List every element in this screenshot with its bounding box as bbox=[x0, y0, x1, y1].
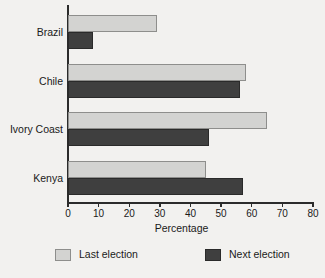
bar[interactable] bbox=[68, 32, 93, 49]
x-tick-label: 30 bbox=[147, 208, 173, 220]
x-tick-label: 40 bbox=[178, 208, 204, 220]
legend-label-next-election: Next election bbox=[229, 248, 290, 261]
bar[interactable] bbox=[68, 64, 246, 81]
bar[interactable] bbox=[68, 81, 240, 98]
category-label: Ivory Coast bbox=[10, 123, 63, 135]
x-tick-mark bbox=[220, 202, 221, 207]
x-tick-mark bbox=[129, 202, 130, 207]
bar[interactable] bbox=[68, 161, 206, 178]
bar[interactable] bbox=[68, 178, 243, 195]
bar[interactable] bbox=[68, 112, 267, 129]
legend-swatch-next-election bbox=[205, 249, 221, 261]
legend-swatch-last-election bbox=[55, 249, 71, 261]
x-tick-mark bbox=[67, 202, 68, 207]
legend-label-last-election: Last election bbox=[79, 248, 138, 261]
legend-item-last-election[interactable]: Last election bbox=[55, 248, 138, 261]
chart-legend: Last election Next election bbox=[0, 248, 325, 270]
x-tick-mark bbox=[282, 202, 283, 207]
x-tick-label: 10 bbox=[86, 208, 112, 220]
x-tick-mark bbox=[159, 202, 160, 207]
x-axis-title: Percentage bbox=[0, 222, 325, 234]
x-tick-mark bbox=[98, 202, 99, 207]
x-tick-label: 80 bbox=[300, 208, 325, 220]
x-tick-label: 0 bbox=[55, 208, 81, 220]
x-tick-label: 70 bbox=[269, 208, 295, 220]
x-tick-label: 60 bbox=[239, 208, 265, 220]
category-label: Kenya bbox=[33, 172, 63, 184]
category-label: Chile bbox=[39, 75, 63, 87]
bar[interactable] bbox=[68, 129, 209, 146]
x-tick-mark bbox=[251, 202, 252, 207]
category-label: Brazil bbox=[37, 26, 63, 38]
bar[interactable] bbox=[68, 15, 157, 32]
legend-item-next-election[interactable]: Next election bbox=[205, 248, 290, 261]
x-tick-mark bbox=[190, 202, 191, 207]
bar-chart: 01020304050607080 BrazilChileIvory Coast… bbox=[0, 0, 325, 278]
x-tick-label: 50 bbox=[208, 208, 234, 220]
x-tick-label: 20 bbox=[116, 208, 142, 220]
x-tick-mark bbox=[312, 202, 313, 207]
